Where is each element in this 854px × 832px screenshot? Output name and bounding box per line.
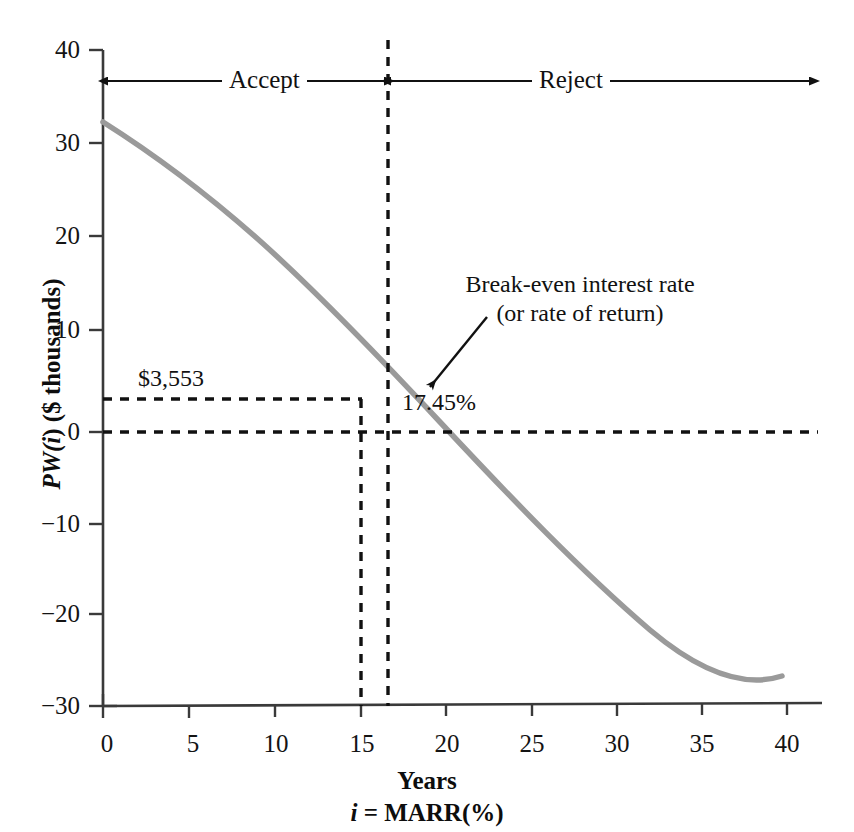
x-tick-label-15: 15 <box>343 731 381 756</box>
y-tick-label-30: 30 <box>28 130 80 155</box>
chart-figure: 40 30 20 10 0 −10 −20 −30 0 5 10 15 20 2… <box>0 0 854 832</box>
y-axis-title: PW(i) ($ thousands) <box>38 278 65 489</box>
guide-lines <box>103 40 818 706</box>
axis-lines <box>103 50 822 706</box>
x-axis-line <box>103 703 822 706</box>
x-tick-label-20: 20 <box>428 731 466 756</box>
pw-vs-marr-chart <box>0 0 854 832</box>
breakeven-note: Break-even interest rate (or rate of ret… <box>430 270 730 329</box>
x-tick-label-30: 30 <box>598 731 636 756</box>
y-axis-title-symbol: i <box>38 437 65 444</box>
y-tick-label-neg20: −20 <box>14 601 80 626</box>
breakeven-rate-label: 17.45% <box>402 390 476 414</box>
x-tick-label-40: 40 <box>768 731 806 756</box>
x-axis-subtitle: i = MARR(%) <box>0 800 854 825</box>
y-axis-title-wrapper: PW(i) ($ thousands) <box>38 224 66 544</box>
y-axis-title-prefix: PW( <box>38 444 65 490</box>
accept-region-label: Accept <box>222 67 307 92</box>
y-axis-title-suffix: ) ($ thousands) <box>38 278 65 436</box>
breakeven-note-line1: Break-even interest rate <box>430 270 730 299</box>
x-axis-subtitle-rest: = MARR(%) <box>357 799 503 826</box>
y-tick-label-40: 40 <box>28 37 80 62</box>
x-tick-label-25: 25 <box>513 731 551 756</box>
breakeven-note-line2: (or rate of return) <box>430 299 730 328</box>
x-tick-label-0: 0 <box>95 731 119 756</box>
x-tick-label-5: 5 <box>181 731 205 756</box>
x-tick-label-35: 35 <box>683 731 721 756</box>
y-tick-label-neg30: −30 <box>14 693 80 718</box>
pw-3553-label: $3,553 <box>138 366 204 390</box>
x-tick-label-10: 10 <box>257 731 295 756</box>
x-axis-title: Years <box>0 768 854 793</box>
reject-region-label: Reject <box>532 67 610 92</box>
